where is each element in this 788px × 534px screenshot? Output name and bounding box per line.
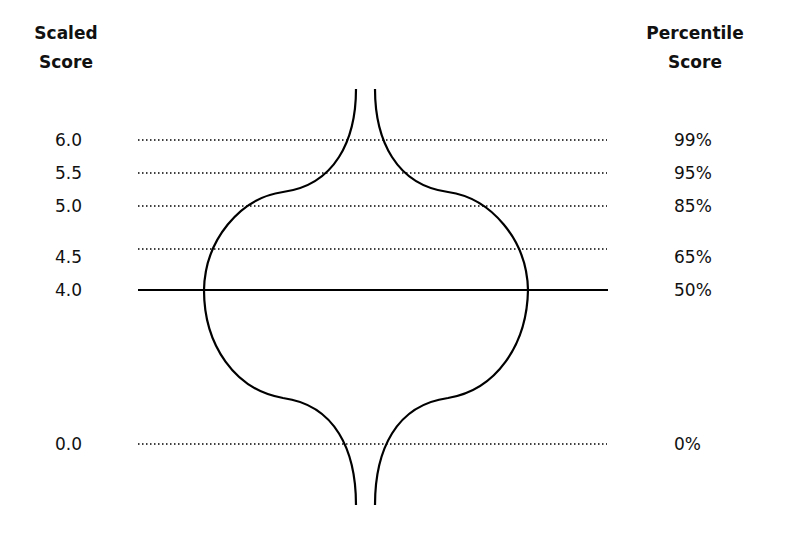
distribution-diagram [0,0,788,534]
shape-outline-right [375,89,528,505]
shape-outline-left [204,89,356,505]
